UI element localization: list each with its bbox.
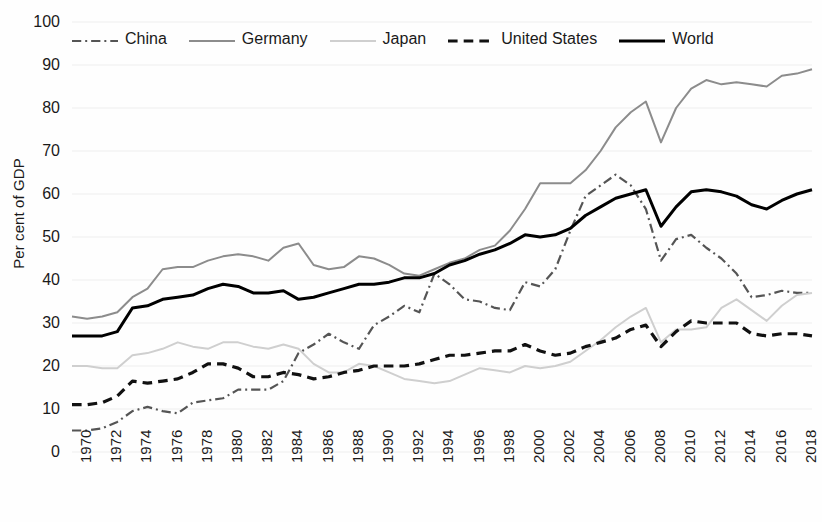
legend-item-germany[interactable]: Germany xyxy=(189,30,308,48)
x-axis-tick-label: 2008 xyxy=(652,430,667,463)
x-axis-tick-label: 1970 xyxy=(78,430,93,463)
x-axis-tick-label: 1994 xyxy=(440,430,455,463)
x-axis-tick-label: 2002 xyxy=(561,430,576,463)
x-axis-tick-label: 2018 xyxy=(803,430,818,463)
x-axis-tick-label: 2004 xyxy=(591,430,606,463)
solid-black-swatch xyxy=(619,33,665,45)
x-axis-tick-label: 1982 xyxy=(259,430,274,463)
solid-lightgray-swatch xyxy=(330,33,376,45)
x-axis-tick-label: 1990 xyxy=(380,430,395,463)
x-axis-tick-label: 1976 xyxy=(169,430,184,463)
legend-label: World xyxy=(672,30,714,48)
x-axis-tick-label: 2000 xyxy=(531,430,546,463)
series-line-china xyxy=(72,175,812,431)
x-axis-tick-label: 1996 xyxy=(471,430,486,463)
legend-item-china[interactable]: China xyxy=(72,30,167,48)
series-line-japan xyxy=(72,293,812,383)
legend-item-japan[interactable]: Japan xyxy=(330,30,427,48)
chart-legend: ChinaGermanyJapanUnited StatesWorld xyxy=(72,28,812,50)
legend-item-united-states[interactable]: United States xyxy=(448,30,597,48)
legend-label: United States xyxy=(501,30,597,48)
x-axis-tick-label: 1980 xyxy=(229,430,244,463)
x-axis-tick-label: 2012 xyxy=(712,430,727,463)
chart-container: Per cent of GDP 1009080706050403020100 1… xyxy=(0,0,822,522)
dashed-bold-swatch xyxy=(448,33,494,45)
legend-label: Germany xyxy=(242,30,308,48)
x-axis-tick-label: 2010 xyxy=(682,430,697,463)
legend-item-world[interactable]: World xyxy=(619,30,714,48)
legend-label: China xyxy=(125,30,167,48)
solid-gray-swatch xyxy=(189,33,235,45)
x-axis-tick-label: 1972 xyxy=(108,430,123,463)
series-line-united-states xyxy=(72,321,812,405)
dash-dot-swatch xyxy=(72,33,118,45)
x-axis-tick-label: 1998 xyxy=(501,430,516,463)
series-line-world xyxy=(72,190,812,336)
x-axis-tick-label: 1986 xyxy=(320,430,335,463)
x-axis-tick-label: 1974 xyxy=(138,430,153,463)
x-axis-tick-label: 2016 xyxy=(773,430,788,463)
x-axis-tick-label: 1988 xyxy=(350,430,365,463)
x-axis-tick-label: 1978 xyxy=(199,430,214,463)
x-axis-tick-label: 1984 xyxy=(289,430,304,463)
x-axis-tick-label: 2006 xyxy=(622,430,637,463)
legend-label: Japan xyxy=(383,30,427,48)
x-axis-tick-label: 2014 xyxy=(742,430,757,463)
x-axis-tick-label: 1992 xyxy=(410,430,425,463)
